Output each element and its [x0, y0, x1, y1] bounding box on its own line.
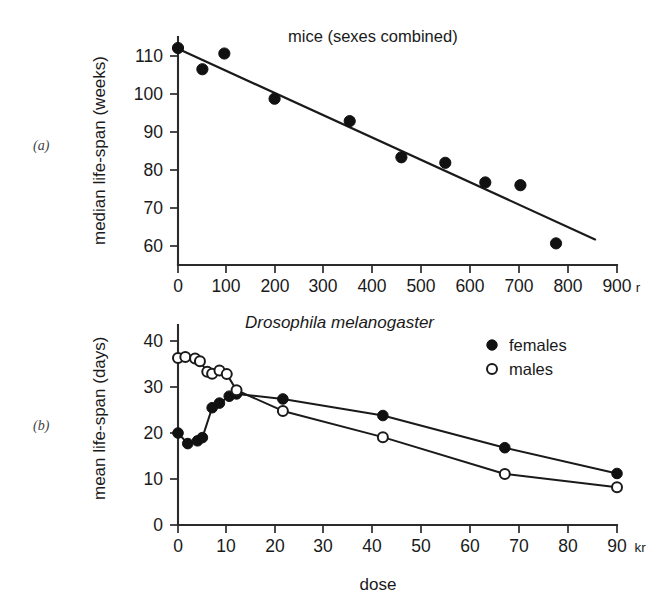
panel-a-x-ticks: [178, 265, 617, 273]
panel-a-xticklabel-100: 100: [211, 276, 240, 296]
panel-b-yticklabel-10: 10: [144, 469, 164, 489]
panel-a-xticklabel-500: 500: [406, 276, 435, 296]
panel-a-y-ticklabels: 60 70 80 90 100 110: [134, 46, 163, 256]
panel-b-y-ticklabels: 0 10 20 30 40: [144, 331, 164, 535]
legend-marker-males-icon: [487, 364, 497, 374]
panel-a-xticklabel-700: 700: [504, 276, 533, 296]
panel-a-x-ticklabels: 0 100 200 300 400 500 600 700 800 900: [173, 276, 632, 296]
panel-b-data-point-females: [278, 394, 289, 405]
panel-a-yticklabel-90: 90: [144, 122, 164, 142]
panel-a-plot-area: [172, 42, 595, 249]
panel-b-yticklabel-0: 0: [153, 515, 163, 535]
panel-a-xticklabel-300: 300: [308, 276, 337, 296]
panel-a-xticklabel-200: 200: [260, 276, 289, 296]
panel-a-y-axis-title: median life-span (weeks): [90, 56, 109, 245]
panel-b-title: Drosophila melanogaster: [245, 313, 435, 332]
panel-b-xticklabel-30: 30: [313, 536, 333, 556]
panel-a-data-point: [219, 48, 230, 59]
panel-b-x-axis-title: dose: [360, 575, 397, 594]
panel-b-yticklabel-30: 30: [144, 377, 164, 397]
panel-a-label: (a): [33, 138, 50, 154]
panel-b-xticklabel-20: 20: [265, 536, 285, 556]
panel-b-data-point-males: [612, 482, 622, 492]
panel-a-x-unit-label: r: [636, 280, 641, 295]
panel-b-xticklabel-50: 50: [411, 536, 431, 556]
panel-a-yticklabel-70: 70: [144, 198, 164, 218]
panel-b-data-point-females: [197, 432, 208, 443]
panel-a-data-point: [396, 152, 407, 163]
panel-a-data-point: [197, 64, 208, 75]
panel-a-data-point: [440, 157, 451, 168]
panel-b-data-point-males: [180, 352, 190, 362]
panel-b-xticklabel-0: 0: [173, 536, 183, 556]
panel-a-yticklabel-100: 100: [134, 84, 163, 104]
panel-b-x-ticks: [178, 525, 617, 533]
panel-a-data-point: [480, 177, 491, 188]
panel-b-plot-area: [173, 352, 623, 492]
panel-a-xticklabel-0: 0: [173, 276, 183, 296]
panel-b-data-point-females: [378, 410, 389, 421]
panel-b-data-point-females: [500, 442, 511, 453]
legend-label-females: females: [509, 336, 567, 354]
panel-b-data-point-males: [232, 385, 242, 395]
panel-a-yticklabel-80: 80: [144, 160, 164, 180]
panel-a-xticklabel-600: 600: [455, 276, 484, 296]
panel-b-series-line-females: [178, 394, 617, 474]
panel-b-label: (b): [33, 418, 50, 434]
panel-b-xticklabel-60: 60: [460, 536, 480, 556]
panel-b-xticklabel-80: 80: [558, 536, 578, 556]
panel-a-xticklabel-900: 900: [602, 276, 631, 296]
legend-label-males: males: [509, 360, 553, 378]
panel-a-regression-line: [178, 49, 595, 240]
panel-b-data-point-females: [182, 438, 193, 449]
panel-a-data-point: [550, 238, 561, 249]
panel-b-data-point-females: [612, 468, 623, 479]
panel-b-y-axis-title: mean life-span (days): [90, 337, 109, 500]
panel-b-data-point-females: [214, 398, 225, 409]
figure-svg: (a) mice (sexes combined) median life-sp…: [0, 0, 664, 608]
panel-b-data-point-males: [378, 432, 388, 442]
panel-b-yticklabel-20: 20: [144, 423, 164, 443]
panel-a-xticklabel-800: 800: [553, 276, 582, 296]
panel-b-yticklabel-40: 40: [144, 331, 164, 351]
legend-marker-females-icon: [487, 340, 497, 350]
panel-b-data-point-females: [173, 428, 184, 439]
panel-a-data-point: [172, 42, 183, 53]
panel-b-xticklabel-40: 40: [362, 536, 382, 556]
panel-b-xticklabel-10: 10: [216, 536, 236, 556]
panel-b-xticklabel-90: 90: [607, 536, 627, 556]
panel-a-yticklabel-110: 110: [135, 46, 163, 66]
panel-b-data-point-males: [278, 406, 288, 416]
panel-b-data-point-males: [500, 469, 510, 479]
panel-b-x-ticklabels: 0 10 20 30 40 50 60 70 80 90: [173, 536, 627, 556]
figure-container: (a) mice (sexes combined) median life-sp…: [0, 0, 664, 608]
panel-b-data-point-males: [222, 369, 232, 379]
panel-b: (b) Drosophila melanogaster mean life-sp…: [33, 313, 646, 594]
panel-a-data-point: [344, 116, 355, 127]
panel-b-data-point-males: [195, 356, 205, 366]
panel-b-legend: females males: [487, 336, 567, 378]
panel-a-y-ticks: [170, 56, 178, 246]
panel-a-xticklabel-400: 400: [357, 276, 386, 296]
panel-a: (a) mice (sexes combined) median life-sp…: [33, 27, 641, 296]
panel-b-xticklabel-70: 70: [509, 536, 529, 556]
panel-a-title: mice (sexes combined): [288, 27, 458, 45]
panel-a-yticklabel-60: 60: [144, 236, 164, 256]
panel-a-data-point: [269, 93, 280, 104]
panel-a-data-point: [515, 180, 526, 191]
panel-b-x-unit-label: kr: [634, 540, 646, 555]
